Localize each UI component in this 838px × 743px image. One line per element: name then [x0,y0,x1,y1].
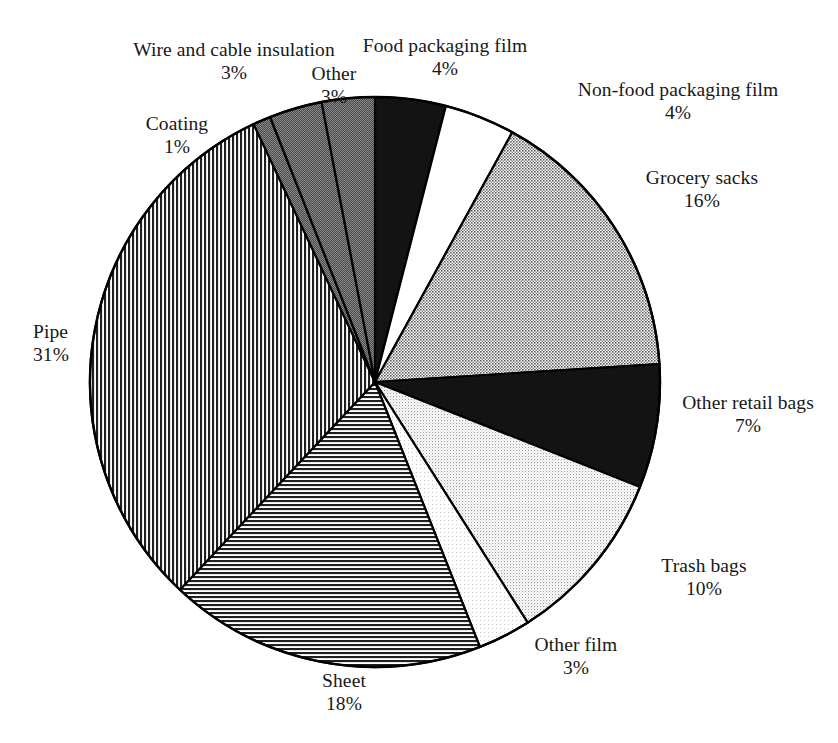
label-other-retail-bags: Other retail bags 7% [658,391,838,437]
pie-slices-group [90,97,660,667]
label-coating: Coating 1% [113,112,241,158]
label-value: 1% [113,135,241,158]
label-trash-bags: Trash bags 10% [614,554,794,600]
label-value: 16% [592,189,812,212]
label-value: 18% [282,692,406,715]
label-name: Grocery sacks [592,166,812,189]
label-value: 10% [614,577,794,600]
label-name: Other retail bags [658,391,838,414]
label-value: 3% [498,656,654,679]
label-sheet: Sheet 18% [282,669,406,715]
label-name: Pipe [33,320,143,343]
label-non-food-packaging-film: Non-food packaging film 4% [528,78,828,124]
label-grocery-sacks: Grocery sacks 16% [592,166,812,212]
label-pipe: Pipe 31% [33,320,143,366]
label-value: 4% [336,57,554,80]
label-food-packaging-film: Food packaging film 4% [336,34,554,80]
label-name: Sheet [282,669,406,692]
label-value: 7% [658,414,838,437]
pie-chart-figure: Wire and cable insulation 3% Other 3% Fo… [0,0,838,743]
label-name: Other film [498,633,654,656]
label-value: 31% [33,343,143,366]
label-value: 3% [286,85,382,108]
label-name: Non-food packaging film [528,78,828,101]
label-name: Coating [113,112,241,135]
label-name: Trash bags [614,554,794,577]
label-other-film: Other film 3% [498,633,654,679]
label-name: Food packaging film [336,34,554,57]
label-value: 4% [528,101,828,124]
